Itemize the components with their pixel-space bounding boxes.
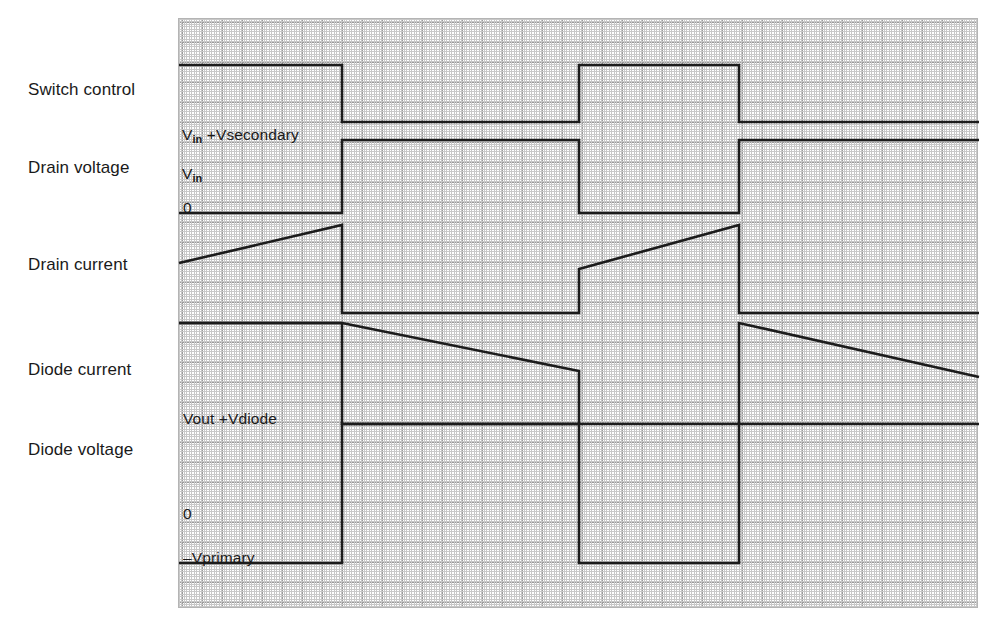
trace-drain-voltage [179,140,979,213]
level-label-vin: Vin [182,166,202,182]
trace-diode-current-pulse-1 [179,323,579,424]
trace-diode-voltage [179,424,979,563]
waveform-grid: Vin +Vsecondary Vin 0 Vout +Vdiode 0 –Vp… [178,18,978,608]
trace-diode-current-pulse-2 [739,323,979,424]
level-label-minus-vprimary: –Vprimary [183,550,255,566]
level-label-vin-plus-vsecondary-sub: in [192,133,202,145]
waveform-traces [179,19,979,609]
level-label-vin-plus-vsecondary-rest: +Vsecondary [202,126,298,143]
level-label-vin-v: V [182,165,192,182]
waveform-figure: Switch control Drain voltage Drain curre… [0,0,995,629]
level-label-vout-plus-vdiode: Vout +Vdiode [183,411,277,427]
level-label-diode-zero: 0 [183,506,192,522]
level-label-vin-sub: in [192,172,202,184]
row-label-switch-control: Switch control [28,80,135,100]
row-label-drain-current: Drain current [28,255,128,275]
trace-switch-control [179,65,979,122]
row-label-diode-voltage: Diode voltage [28,440,133,460]
level-label-vin-plus-vsecondary-v: V [182,126,192,143]
row-label-diode-current: Diode current [28,360,131,380]
level-label-drain-zero: 0 [183,200,192,216]
level-label-vin-plus-vsecondary: Vin +Vsecondary [182,127,299,143]
row-label-drain-voltage: Drain voltage [28,158,129,178]
trace-drain-current [179,225,979,313]
trace-diode-current-decay-1 [342,323,579,424]
